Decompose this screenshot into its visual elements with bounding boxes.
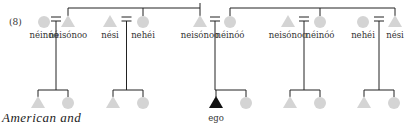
male-triangle-icon: [283, 96, 297, 108]
kin-term-label: neisónoo: [181, 30, 219, 40]
kin-term-label: néinóó: [216, 30, 245, 40]
ego-triangle-icon: [209, 96, 223, 108]
male-triangle-icon: [281, 15, 295, 27]
female-circle-icon: [314, 97, 326, 109]
female-circle-icon: [240, 97, 252, 109]
female-circle-icon: [224, 16, 236, 28]
female-circle-icon: [314, 16, 326, 28]
kin-term-label: néinóó: [306, 30, 335, 40]
male-triangle-icon: [388, 15, 402, 27]
male-triangle-icon: [357, 96, 371, 108]
kin-term-label: nési: [101, 30, 119, 40]
female-circle-icon: [38, 16, 50, 28]
kin-term-label: nehéi: [351, 30, 375, 40]
male-triangle-icon: [193, 15, 207, 27]
male-triangle-icon: [106, 96, 120, 108]
kin-term-label: neisónoo: [49, 30, 87, 40]
kin-term-label: neisónoo: [269, 30, 307, 40]
male-triangle-icon: [103, 15, 117, 27]
female-circle-icon: [388, 97, 400, 109]
female-circle-icon: [137, 97, 149, 109]
kin-term-label: nehéi: [131, 30, 155, 40]
female-circle-icon: [357, 16, 369, 28]
kinship-diagram: (8) néinóóneisónoonésinehéineisónoonéinó…: [0, 0, 407, 129]
diagram-number: (8): [9, 17, 22, 27]
ego-label: ego: [208, 113, 224, 123]
kin-term-label: nési: [386, 30, 404, 40]
caption-text: American and: [2, 110, 81, 126]
female-circle-icon: [137, 16, 149, 28]
female-circle-icon: [62, 97, 74, 109]
male-triangle-icon: [61, 15, 75, 27]
male-triangle-icon: [31, 96, 45, 108]
